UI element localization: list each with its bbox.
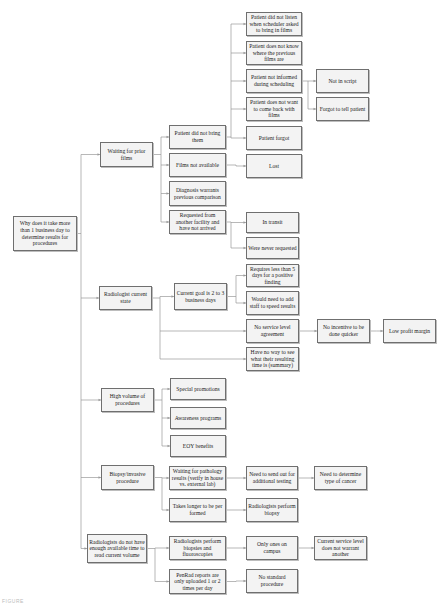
cause-box: Waiting for prior films [100, 142, 153, 167]
cause-box: Patient does not want to come back with … [246, 97, 302, 121]
cause-box: Current goal is 2 to 3 business days [174, 283, 227, 310]
cause-box: PenRad reports are only uploaded 1 or 2 … [169, 569, 226, 594]
cause-box: High volume of procedures [101, 388, 154, 412]
cause-box: Radiologists perform biopsy [246, 498, 298, 522]
figure-caption: FIGURE [2, 598, 24, 604]
cause-box: EOY benefits [170, 435, 226, 457]
cause-box: Current service level does not warrant a… [314, 536, 367, 560]
cause-box: Need to send out for additional testing [246, 466, 298, 490]
cause-box: Radiologists perform biopsies and fluoro… [169, 536, 226, 560]
cause-box: Patient does not know where the previous… [246, 41, 302, 65]
cause-box: Patient not informed during scheduling [246, 69, 302, 93]
cause-box: No service level agreement [246, 319, 299, 343]
cause-box: Forgot to tell patient [316, 97, 369, 121]
cause-box: Only ones on campus [246, 536, 298, 560]
cause-box: Requires less than 5 days for a positive… [246, 264, 299, 287]
cause-box: Waiting for pathology results (verify in… [169, 466, 226, 490]
root-question-box: Why does it take more than 1 business da… [13, 216, 77, 251]
cause-box: Low profit margin [383, 319, 436, 343]
cause-box: Were never requested [246, 237, 299, 259]
cause-box: Diagnosis warrants previous comparison [169, 181, 226, 206]
cause-box: Awareness programs [170, 407, 226, 429]
cause-box: Need to determine type of cancer [314, 466, 367, 490]
cause-box: Have no way to see what their resulting … [246, 347, 299, 371]
cause-box: Radiologists do not have enough availabl… [87, 534, 147, 563]
cause-box: Patient did not listen when scheduler as… [246, 12, 302, 36]
cause-box: Biopsy/invasive procedure [101, 465, 154, 490]
cause-box: No incentive to be done quicker [317, 319, 370, 343]
cause-box: No standard procedure [246, 569, 298, 593]
cause-box: Patient did not bring them [169, 125, 226, 149]
cause-box: Lost [246, 154, 302, 178]
cause-box: In transit [246, 212, 299, 233]
cause-box: Radiologist current state [99, 286, 152, 310]
cause-box: Would need to add staff to speed results [246, 291, 299, 315]
cause-box: Requested from another facility and have… [169, 210, 226, 234]
cause-box: Patient forgot [246, 126, 302, 150]
cause-box: Takes longer to be per formed [169, 498, 226, 522]
cause-box: Not in script [316, 69, 369, 93]
cause-box: Films not available [169, 153, 226, 177]
cause-box: Special promotions [170, 378, 226, 400]
why-tree-diagram: Why does it take more than 1 business da… [0, 0, 445, 607]
